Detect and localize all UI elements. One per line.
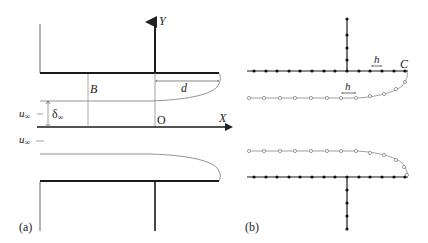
upper-surface-nodes	[247, 80, 406, 99]
panel-b-label: (b)	[245, 221, 259, 233]
panel-b	[247, 17, 409, 230]
lower-free-surface	[40, 154, 220, 181]
corner-c-label: C	[400, 58, 408, 70]
velocity-upper-label: u∞	[19, 108, 30, 121]
lower-wall-nodes	[252, 175, 406, 230]
upper-free-surface	[40, 73, 220, 101]
delta-subscript: ∞	[58, 113, 64, 122]
panel-a-label: (a)	[19, 221, 32, 233]
length-d-label: d	[181, 82, 187, 94]
velocity-lower-label: u∞	[19, 134, 30, 147]
panel-a	[36, 22, 226, 231]
y-axis-label: Y	[159, 15, 166, 27]
upper-wall-nodes	[252, 17, 406, 72]
width-b-label: B	[90, 83, 97, 95]
figure-canvas	[0, 0, 428, 243]
h-label-wall: h	[374, 54, 380, 65]
u-subscript-upper: ∞	[25, 112, 31, 121]
lower-surface-nodes	[247, 149, 408, 176]
thickness-delta-label: δ∞	[52, 108, 63, 122]
x-axis-label: X	[219, 112, 226, 124]
h-label-surface: h	[345, 81, 351, 92]
u-subscript-lower: ∞	[25, 138, 31, 147]
origin-label: O	[157, 114, 166, 126]
